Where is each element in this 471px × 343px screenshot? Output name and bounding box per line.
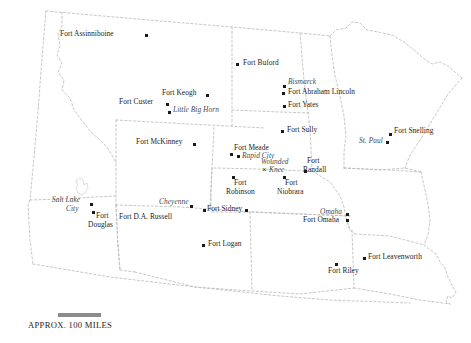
border-idaho-west [30,11,46,200]
point-fort-mckinney[interactable] [193,143,196,146]
border-missouri-east [424,245,456,304]
point-bismarck[interactable] [283,85,286,88]
point-fort-omaha[interactable] [346,219,349,222]
border-colorado-south [135,272,250,291]
border-colorado-west [116,205,118,246]
point-rapid-city[interactable] [237,155,240,158]
label-bismarck: Bismarck [288,78,316,87]
border-colorado-east [250,212,252,291]
label-fort-randall-line2: Randall [303,166,326,175]
point-fort-buford[interactable] [236,63,239,66]
label-fort-abraham-lincoln: Fort Abraham Lincoln [288,88,355,97]
border-minnesota-south [344,168,421,172]
label-st-paul: St. Paul [359,137,383,146]
border-iowa-south [355,234,424,245]
point-fort-logan[interactable] [202,244,205,247]
label-fort-sidney: Fort Sidney [207,205,242,214]
point-fort-leavenworth[interactable] [363,257,366,260]
point-fort-da-russell[interactable] [203,209,206,212]
point-fort-yates[interactable] [283,105,286,108]
label-fort-assinniboine: Fort Assinniboine [60,30,114,39]
label-fort-douglas-line2: Douglas [88,221,113,230]
label-fort-logan: Fort Logan [208,240,242,249]
label-fort-mckinney: Fort McKinney [136,138,182,147]
point-fort-sully[interactable] [281,130,284,133]
border-minnesota-west [330,36,346,168]
point-little-big-horn[interactable] [168,111,171,114]
historical-forts-map: × Fort Assinniboine Fort Buford Bismarck… [0,0,471,343]
point-omaha[interactable] [346,213,349,216]
label-little-big-horn: Little Big Horn [173,106,219,115]
border-minnesota-north [330,22,462,78]
label-fort-da-russell: Fort D.A. Russell [119,213,172,222]
border-dakota-north-south [232,110,310,113]
border-kansas-east [352,230,354,288]
point-fort-assinniboine[interactable] [145,34,148,37]
label-fort-yates: Fort Yates [288,101,318,110]
point-fort-douglas[interactable] [92,211,95,214]
label-fort-keogh: Fort Keogh [162,89,196,98]
point-fort-snelling[interactable] [389,133,392,136]
label-fort-snelling: Fort Snelling [394,127,433,136]
point-fort-keogh[interactable] [206,94,209,97]
point-st-paul[interactable] [386,141,389,144]
label-salt-lake-city-line2: City [66,205,79,214]
border-iowa-north [344,168,421,172]
border-minnesota-east [405,78,462,168]
border-missouri-south [354,288,450,304]
border-utah-west [28,200,33,264]
great-salt-lake [76,178,88,195]
label-fort-sully: Fort Sully [287,126,317,135]
point-fort-custer[interactable] [166,103,169,106]
label-fort-riley: Fort Riley [328,267,359,276]
label-fort-omaha: Fort Omaha [303,216,339,225]
point-fort-abraham-lincoln[interactable] [282,92,285,95]
border-kansas-south [252,288,354,294]
label-fort-robinson-line2: Robinson [226,188,255,197]
label-fort-buford: Fort Buford [243,59,279,68]
label-wounded-knee-line2: Knee [269,166,284,175]
label-cheyenne: Cheyenne [159,198,189,207]
border-utah-south [120,270,135,272]
border-montana-wyoming [116,120,265,128]
map-boundaries [0,0,471,343]
scale-bar-label: APPROX. 100 MILES [28,320,112,330]
point-fort-sidney[interactable] [245,209,248,212]
label-fort-leavenworth: Fort Leavenworth [368,253,422,262]
scale-bar [58,313,101,317]
label-fort-custer: Fort Custer [119,98,153,107]
point-wounded-knee-x-marker[interactable]: × [262,166,267,174]
point-cheyenne[interactable] [190,205,193,208]
point-salt-lake-city[interactable] [90,203,93,206]
point-fort-meade[interactable] [230,153,233,156]
label-fort-niobrara-line2: Niobrara [277,188,304,197]
border-iowa-east [421,172,430,245]
